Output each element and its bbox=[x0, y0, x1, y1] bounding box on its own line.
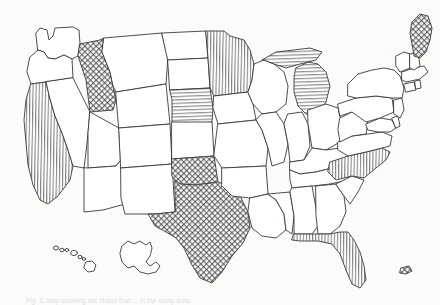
state-wyoming bbox=[116, 84, 170, 128]
state-minnesota bbox=[206, 31, 254, 96]
state-kansas bbox=[172, 122, 214, 159]
state-rhode-island bbox=[415, 80, 421, 89]
state-alabama bbox=[290, 186, 318, 234]
state-florida bbox=[292, 232, 366, 288]
inset-hawaii bbox=[53, 246, 96, 272]
state-new-mexico bbox=[121, 164, 175, 214]
state-south-dakota bbox=[168, 58, 210, 90]
state-arizona bbox=[84, 160, 125, 212]
state-indiana bbox=[284, 112, 310, 162]
state-new-york bbox=[348, 68, 404, 98]
state-utah bbox=[88, 112, 121, 168]
state-colorado bbox=[119, 124, 172, 168]
figure-caption: Fig. 1. Map showing the states that ... … bbox=[26, 297, 190, 305]
inset-alaska bbox=[120, 241, 160, 274]
state-nebraska bbox=[170, 88, 213, 125]
state-connecticut bbox=[404, 82, 416, 92]
state-new-jersey bbox=[394, 98, 404, 118]
state-maine bbox=[410, 14, 432, 58]
state-oklahoma bbox=[172, 156, 218, 185]
state-wisconsin bbox=[248, 60, 288, 114]
state-vermont bbox=[396, 52, 410, 72]
state-arkansas bbox=[222, 166, 268, 198]
state-ohio bbox=[308, 104, 342, 150]
state-north-dakota bbox=[162, 31, 208, 60]
inset-puerto-rico bbox=[400, 266, 412, 274]
